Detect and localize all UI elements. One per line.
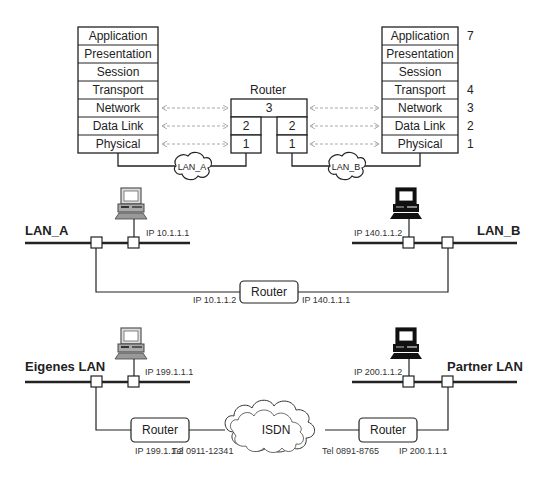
osi-router-stack: Router 3 2 1 2 1 xyxy=(231,83,307,153)
lan-routing-section: LAN_A LAN_B IP 10.1.1.1 IP 140.1.1.2 Rou… xyxy=(25,188,520,305)
isdn-label: ISDN xyxy=(262,423,291,437)
router-title: Router xyxy=(250,83,286,97)
network-port xyxy=(128,376,139,387)
router-label: Router xyxy=(251,285,287,299)
own-lan-label: Eigenes LAN xyxy=(25,359,105,374)
host-ip-right: IP 140.1.1.2 xyxy=(354,228,402,238)
isdn-cloud: ISDN xyxy=(225,400,314,452)
host-ip-left: IP 199.1.1.1 xyxy=(145,367,193,377)
layer-datalink: Data Link xyxy=(93,119,145,133)
layer-number-4: 4 xyxy=(467,83,474,97)
network-port xyxy=(442,376,453,387)
lan-a-cloud: LAN_A xyxy=(174,152,211,179)
router-right-layer-2: 2 xyxy=(289,119,296,133)
computer-icon xyxy=(390,188,422,219)
router-ip-left: IP 10.1.1.2 xyxy=(193,295,236,305)
layer-physical: Physical xyxy=(96,137,141,151)
computer-icon xyxy=(115,328,147,359)
layer-number-1: 1 xyxy=(467,137,474,151)
physical-links xyxy=(118,153,420,166)
network-port xyxy=(442,237,453,248)
router-ip-right: IP 200.1.1.1 xyxy=(399,446,447,456)
layer-application: Application xyxy=(89,29,148,43)
lan-a-cloud-label: LAN_A xyxy=(178,162,207,172)
layer-number-2: 2 xyxy=(467,119,474,133)
osi-right-stack: Application Presentation Session Transpo… xyxy=(382,27,474,153)
network-port xyxy=(128,237,139,248)
network-port xyxy=(91,376,102,387)
router-left-layer-2: 2 xyxy=(243,119,250,133)
router-left-layer-1: 1 xyxy=(243,137,250,151)
lan-b-cloud-label: LAN_B xyxy=(332,162,361,172)
router-label-right: Router xyxy=(370,423,406,437)
layer-transport: Transport xyxy=(93,83,145,97)
network-port xyxy=(403,237,414,248)
layer-presentation: Presentation xyxy=(386,47,453,61)
lan-a-label: LAN_A xyxy=(25,223,69,238)
layer-session: Session xyxy=(399,65,442,79)
osi-left-stack: Application Presentation Session Transpo… xyxy=(78,27,158,153)
host-ip-right: IP 200.1.1.2 xyxy=(354,367,402,377)
network-port xyxy=(403,376,414,387)
layer-datalink: Data Link xyxy=(395,119,447,133)
router-tel-left: Tel 0911-12341 xyxy=(172,446,233,456)
computer-icon xyxy=(115,188,147,219)
lan-b-cloud: LAN_B xyxy=(328,152,365,179)
lan-b-label: LAN_B xyxy=(477,223,520,238)
isdn-routing-section: Eigenes LAN Partner LAN IP 199.1.1.1 IP … xyxy=(25,328,523,456)
layer-physical: Physical xyxy=(398,137,443,151)
host-ip-left: IP 10.1.1.1 xyxy=(146,228,189,238)
computer-icon xyxy=(390,328,422,359)
layer-session: Session xyxy=(97,65,140,79)
network-port xyxy=(91,237,102,248)
router-tel-right: Tel 0891-8765 xyxy=(322,446,379,456)
layer-application: Application xyxy=(391,29,450,43)
layer-network: Network xyxy=(96,101,141,115)
partner-lan-label: Partner LAN xyxy=(447,359,523,374)
router-label-left: Router xyxy=(142,423,178,437)
router-ip-right: IP 140.1.1.1 xyxy=(302,295,350,305)
layer-number-7: 7 xyxy=(467,29,474,43)
layer-presentation: Presentation xyxy=(84,47,151,61)
router-right-layer-1: 1 xyxy=(289,137,296,151)
router-layer-3: 3 xyxy=(266,101,273,115)
layer-network: Network xyxy=(398,101,443,115)
layer-number-3: 3 xyxy=(467,101,474,115)
layer-transport: Transport xyxy=(395,83,447,97)
network-diagram: Application Presentation Session Transpo… xyxy=(0,0,544,480)
